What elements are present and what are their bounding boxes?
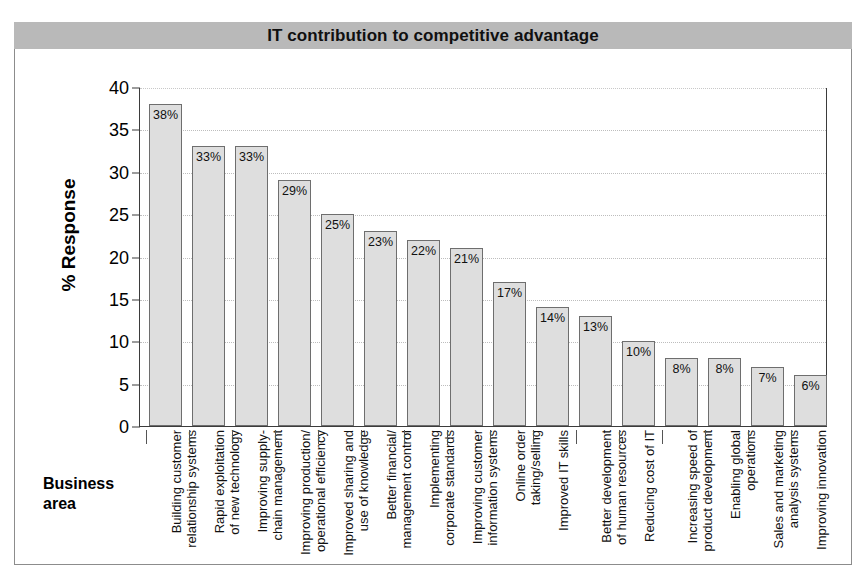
x-tick-mark <box>619 430 620 444</box>
x-category-slot: Improving customerinformation systems <box>448 430 491 583</box>
x-category-label-line: Sales and marketing <box>771 430 786 582</box>
y-tick-mark <box>132 88 140 89</box>
x-tick-mark <box>447 430 448 444</box>
bar[interactable]: 29% <box>278 180 311 426</box>
x-category-label-line: Better financial/ <box>384 430 399 582</box>
bar-slot: 13% <box>578 88 621 426</box>
bar[interactable]: 13% <box>579 316 612 426</box>
bar[interactable]: 7% <box>751 367 784 426</box>
x-category-label-line: Building customer <box>169 430 184 582</box>
plot-area: 0510152025303540 38%33%33%29%25%23%22%21… <box>139 88 827 427</box>
y-tick-label: 20 <box>109 247 129 268</box>
bar[interactable]: 10% <box>622 341 655 426</box>
bar[interactable]: 8% <box>665 358 698 426</box>
bar[interactable]: 8% <box>708 358 741 426</box>
bar-slot: 33% <box>234 88 277 426</box>
x-tick-mark <box>146 430 147 444</box>
x-axis-title-line2: area <box>43 494 153 514</box>
x-category-slot: Improved sharing anduse of knowledge <box>319 430 362 583</box>
x-category-label-line: Reducing cost of IT <box>642 430 657 582</box>
x-category-slot: Rapid exploitationof new technology <box>190 430 233 583</box>
bar-value-label: 10% <box>623 345 654 359</box>
x-category-slot: Enabling globaloperations <box>706 430 749 583</box>
page-title: IT contribution to competitive advantage <box>267 26 599 46</box>
x-tick-mark <box>361 430 362 444</box>
bar-slot: 21% <box>449 88 492 426</box>
x-tick-mark <box>275 430 276 444</box>
x-tick-mark <box>791 430 792 444</box>
x-category-slot: Better developmentof human resources <box>577 430 620 583</box>
y-tick-mark <box>132 299 140 300</box>
bar-value-label: 8% <box>709 362 740 376</box>
bar-slot: 29% <box>277 88 320 426</box>
x-category-slot: Improving production/operational efficie… <box>276 430 319 583</box>
bar[interactable]: 17% <box>493 282 526 426</box>
bar-value-label: 33% <box>236 150 267 164</box>
x-axis-category-labels: Building customerrelationship systemsRap… <box>139 430 827 583</box>
x-category-label-line: Improving innovation <box>814 430 829 582</box>
x-category-slot: Improving innovation <box>792 430 835 583</box>
y-tick-mark <box>132 342 140 343</box>
bar-slot: 25% <box>320 88 363 426</box>
x-tick-mark <box>318 430 319 444</box>
bar[interactable]: 21% <box>450 248 483 426</box>
bar-value-label: 23% <box>365 235 396 249</box>
bar[interactable]: 38% <box>149 104 182 426</box>
y-axis-title: % Response <box>58 155 80 315</box>
y-tick-mark <box>132 427 140 428</box>
x-tick-mark <box>662 430 663 444</box>
bar[interactable]: 22% <box>407 240 440 426</box>
bar[interactable]: 33% <box>192 146 225 426</box>
x-category-slot: Implementingcorporate standards <box>405 430 448 583</box>
bar-value-label: 6% <box>795 379 826 393</box>
bar-value-label: 22% <box>408 244 439 258</box>
bar-slot: 6% <box>793 88 836 426</box>
bar[interactable]: 25% <box>321 214 354 426</box>
bar-slot: 38% <box>148 88 191 426</box>
bar-slot: 22% <box>406 88 449 426</box>
x-category-label-line: Rapid exploitation <box>212 430 227 582</box>
bar-slot: 8% <box>664 88 707 426</box>
y-tick-label: 30 <box>109 162 129 183</box>
x-axis-title-line1: Business <box>43 474 153 494</box>
x-category-label: Improving innovation <box>814 430 829 582</box>
bar[interactable]: 14% <box>536 307 569 426</box>
x-category-label-line: Improving customer <box>470 430 485 582</box>
bar-value-label: 17% <box>494 286 525 300</box>
x-category-label-line: Improving production/ <box>298 430 313 582</box>
x-category-label-line: Improved IT skills <box>556 430 571 582</box>
x-tick-mark <box>748 430 749 444</box>
y-tick-label: 15 <box>109 289 129 310</box>
bar-slot: 8% <box>707 88 750 426</box>
x-category-label-line: Improved sharing and <box>341 430 356 582</box>
x-tick-mark <box>232 430 233 444</box>
x-tick-mark <box>189 430 190 444</box>
bar-slot: 14% <box>535 88 578 426</box>
bar-slot: 23% <box>363 88 406 426</box>
y-tick-mark <box>132 172 140 173</box>
bar-value-label: 38% <box>150 108 181 122</box>
x-category-label-line: Enabling global <box>728 430 743 582</box>
y-tick-mark <box>132 215 140 216</box>
x-category-label-line: Increasing speed of <box>685 430 700 582</box>
x-tick-mark <box>404 430 405 444</box>
bar-value-label: 21% <box>451 252 482 266</box>
x-category-slot: Improving supply-chain management <box>233 430 276 583</box>
x-category-slot: Building customerrelationship systems <box>147 430 190 583</box>
bar[interactable]: 6% <box>794 375 827 426</box>
y-tick-label: 10 <box>109 332 129 353</box>
x-category-slot: Reducing cost of IT <box>620 430 663 583</box>
y-tick-label: 35 <box>109 120 129 141</box>
x-category-slot: Sales and marketinganalysis systems <box>749 430 792 583</box>
bar[interactable]: 23% <box>364 231 397 426</box>
bar[interactable]: 33% <box>235 146 268 426</box>
bar-value-label: 33% <box>193 150 224 164</box>
x-category-slot: Online ordertaking/selling <box>491 430 534 583</box>
x-axis-title: Business area <box>43 474 153 514</box>
x-category-label-line: Online order <box>513 430 528 582</box>
x-category-slot: Better financial/management control <box>362 430 405 583</box>
bar-slot: 17% <box>492 88 535 426</box>
bar-slot: 7% <box>750 88 793 426</box>
y-tick-label: 5 <box>119 374 129 395</box>
x-category-label-line: Improving supply- <box>255 430 270 582</box>
